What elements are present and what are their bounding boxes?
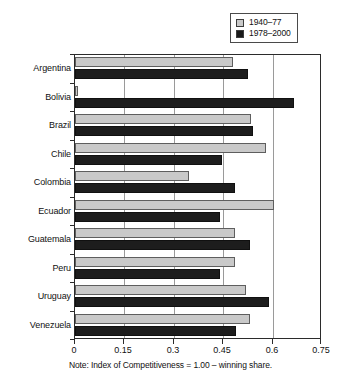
bar-chile-early bbox=[75, 143, 266, 153]
bar-bolivia-late bbox=[75, 98, 294, 108]
bar-bolivia-early bbox=[75, 86, 78, 96]
bar-uruguay-late bbox=[75, 297, 269, 307]
bar-ecuador-late bbox=[75, 212, 220, 222]
plot-area bbox=[74, 54, 321, 339]
bar-guatemala-late bbox=[75, 240, 250, 250]
x-axis-tick-0.75 bbox=[320, 339, 321, 344]
y-axis-label-uruguay: Uruguay bbox=[1, 291, 71, 301]
y-axis-label-argentina: Argentina bbox=[1, 63, 71, 73]
legend-swatch-black-icon bbox=[236, 30, 244, 38]
y-axis-labels: ArgentinaBoliviaBrazilChileColombiaEcuad… bbox=[0, 54, 71, 339]
bar-chile-late bbox=[75, 155, 222, 165]
legend-label-1940-77: 1940–77 bbox=[249, 17, 281, 28]
plot-inner bbox=[75, 55, 320, 338]
y-axis-label-peru: Peru bbox=[1, 263, 71, 273]
bar-venezuela-early bbox=[75, 314, 250, 324]
y-axis-label-brazil: Brazil bbox=[1, 120, 71, 130]
x-axis-tick-0.45 bbox=[222, 339, 223, 344]
bar-brazil-late bbox=[75, 126, 253, 136]
x-axis-label-0.45: 0.45 bbox=[213, 345, 231, 356]
bar-brazil-early bbox=[75, 114, 251, 124]
x-axis-tick-0.6 bbox=[272, 339, 273, 344]
y-axis-label-bolivia: Bolivia bbox=[1, 92, 71, 102]
bar-group-ecuador bbox=[75, 198, 320, 227]
bar-group-venezuela bbox=[75, 312, 320, 341]
x-axis-tick-0.15 bbox=[123, 339, 124, 344]
bar-group-colombia bbox=[75, 169, 320, 198]
y-axis-label-ecuador: Ecuador bbox=[1, 206, 71, 216]
legend-swatch-gray-icon bbox=[236, 19, 244, 27]
bar-peru-late bbox=[75, 269, 220, 279]
bar-argentina-early bbox=[75, 57, 233, 67]
bar-group-uruguay bbox=[75, 283, 320, 312]
y-axis-label-guatemala: Guatemala bbox=[1, 234, 71, 244]
bar-group-peru bbox=[75, 255, 320, 284]
chart-note: Note: Index of Competitiveness = 1.00 – … bbox=[0, 359, 341, 371]
bar-colombia-late bbox=[75, 183, 235, 193]
bar-peru-early bbox=[75, 257, 235, 267]
legend-label-1978-2000: 1978–2000 bbox=[249, 28, 291, 39]
bar-venezuela-late bbox=[75, 326, 236, 336]
x-axis-tick-0.3 bbox=[173, 339, 174, 344]
bar-guatemala-early bbox=[75, 228, 235, 238]
legend-item-1978-2000: 1978–2000 bbox=[236, 28, 291, 39]
bar-group-bolivia bbox=[75, 84, 320, 113]
x-axis-tick-0 bbox=[74, 339, 75, 344]
x-axis-label-0: 0 bbox=[71, 345, 76, 356]
x-axis-label-0.15: 0.15 bbox=[114, 345, 132, 356]
y-axis-label-colombia: Colombia bbox=[1, 177, 71, 187]
y-axis-label-venezuela: Venezuela bbox=[1, 320, 71, 330]
bar-uruguay-early bbox=[75, 285, 246, 295]
x-axis-label-0.75: 0.75 bbox=[312, 345, 330, 356]
y-axis-label-chile: Chile bbox=[1, 149, 71, 159]
x-axis: 00.150.30.450.60.75 bbox=[74, 339, 321, 361]
bar-argentina-late bbox=[75, 69, 248, 79]
bar-chart-figure: 1940–77 1978–2000 ArgentinaBoliviaBrazil… bbox=[0, 0, 341, 379]
bar-group-chile bbox=[75, 141, 320, 170]
bar-colombia-early bbox=[75, 171, 189, 181]
chart-legend: 1940–77 1978–2000 bbox=[230, 13, 298, 43]
bar-group-brazil bbox=[75, 112, 320, 141]
legend-item-1940-77: 1940–77 bbox=[236, 17, 291, 28]
x-axis-label-0.6: 0.6 bbox=[266, 345, 279, 356]
bar-group-guatemala bbox=[75, 226, 320, 255]
bar-ecuador-early bbox=[75, 200, 274, 210]
x-axis-label-0.3: 0.3 bbox=[167, 345, 180, 356]
bar-group-argentina bbox=[75, 55, 320, 84]
